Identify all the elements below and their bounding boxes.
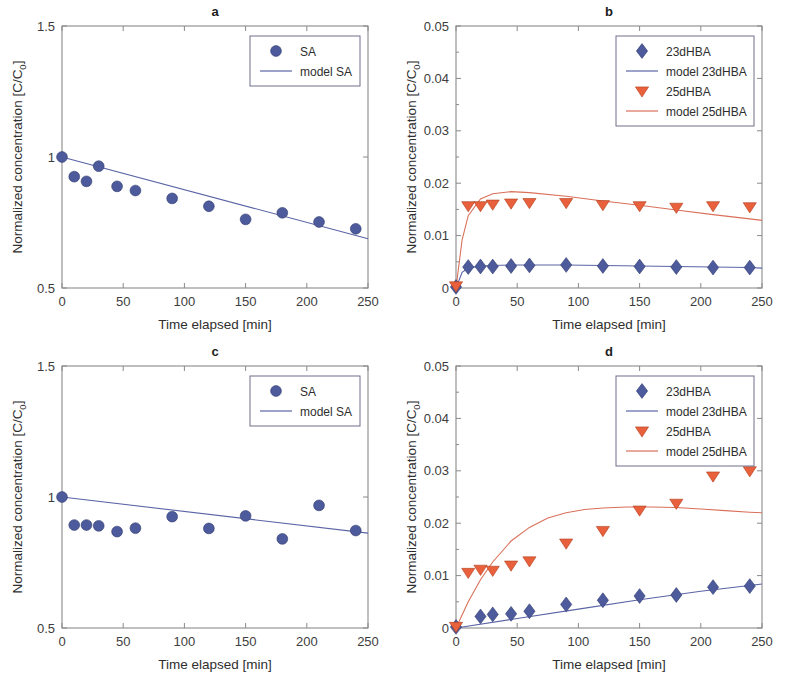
x-tick-label: 200 [296, 294, 318, 309]
data-point-25dHBA [743, 203, 756, 213]
x-tick-label: 0 [58, 634, 65, 649]
y-tick-label: 0 [442, 281, 449, 296]
svg-text:Normalized concentration [C/C0: Normalized concentration [C/C0] [404, 61, 422, 254]
data-point-SA [93, 520, 104, 531]
data-point-SA [314, 500, 325, 511]
plot-c: c0501001502002500.511.5Time elapsed [min… [0, 340, 393, 680]
data-point-25dHBA [462, 202, 475, 212]
y-tick-label: 0.01 [424, 228, 449, 243]
data-point-SA [240, 510, 251, 521]
data-point-23dHBA [707, 580, 718, 595]
panel-title-d: d [605, 344, 613, 359]
x-axis-title: Time elapsed [min] [552, 657, 666, 672]
legend-label: 23dHBA [666, 385, 711, 399]
data-point-SA [350, 525, 361, 536]
legend-d: 23dHBAmodel 23dHBA25dHBAmodel 25dHBA [616, 376, 754, 466]
y-tick-label: 0.5 [37, 281, 55, 296]
y-axis-title: Normalized concentration [C/C0] [404, 61, 422, 254]
legend-label: model 25dHBA [666, 105, 747, 119]
subplot-d: d05010015020025000.010.020.030.040.05Tim… [394, 340, 787, 680]
data-point-23dHBA [707, 260, 718, 275]
panel-title-b: b [605, 4, 613, 19]
data-point-23dHBA [561, 258, 572, 273]
x-tick-label: 100 [568, 634, 590, 649]
x-axis-title: Time elapsed [min] [158, 657, 272, 672]
x-tick-label: 50 [510, 294, 524, 309]
data-point-23dHBA [487, 259, 498, 274]
x-tick-label: 100 [568, 294, 590, 309]
subplot-a: a0501001502002500.511.5Time elapsed [min… [0, 0, 393, 340]
panel-title-c: c [211, 344, 218, 359]
data-point-25dHBA [633, 202, 646, 212]
data-point-23dHBA [671, 260, 682, 275]
plot-a: a0501001502002500.511.5Time elapsed [min… [0, 0, 393, 340]
plot-b: b05010015020025000.010.020.030.040.05Tim… [394, 0, 787, 340]
x-tick-label: 250 [751, 634, 773, 649]
x-tick-label: 150 [235, 634, 257, 649]
data-point-SA [112, 526, 123, 537]
data-point-25dHBA [670, 203, 683, 213]
legend-a: SAmodel SA [250, 36, 360, 86]
y-tick-label: 1.5 [37, 19, 55, 34]
y-tick-label: 0.01 [424, 568, 449, 583]
data-point-SA [203, 201, 214, 212]
x-tick-label: 100 [174, 294, 196, 309]
y-tick-label: 0.02 [424, 516, 449, 531]
plot-d: d05010015020025000.010.020.030.040.05Tim… [394, 340, 787, 680]
data-point-SA [69, 171, 80, 182]
data-point-25dHBA [523, 198, 536, 208]
legend-label: SA [300, 45, 316, 59]
legend-box [250, 36, 360, 86]
x-tick-label: 0 [452, 294, 459, 309]
data-point-23dHBA [744, 260, 755, 275]
x-tick-label: 50 [116, 294, 130, 309]
data-point-25dHBA [523, 557, 536, 567]
data-point-23dHBA [634, 259, 645, 274]
data-point-SA [240, 214, 251, 225]
legend-label: model SA [300, 405, 352, 419]
data-point-25dHBA [486, 200, 499, 210]
data-point-23dHBA [524, 258, 535, 273]
data-point-23dHBA [744, 579, 755, 594]
data-point-23dHBA [505, 259, 516, 274]
data-point-SA [69, 520, 80, 531]
legend-box [250, 376, 360, 426]
legend-label: 25dHBA [666, 85, 711, 99]
data-point-SA [112, 181, 123, 192]
data-point-25dHBA [560, 198, 573, 208]
legend-label: model 25dHBA [666, 445, 747, 459]
x-tick-label: 150 [629, 634, 651, 649]
data-point-23dHBA [561, 597, 572, 612]
y-tick-label: 0.05 [424, 359, 449, 374]
legend-label: model 23dHBA [666, 65, 747, 79]
y-tick-label: 0 [442, 621, 449, 636]
data-point-23dHBA [475, 609, 486, 624]
y-axis-title: Normalized concentration [C/C0] [10, 61, 28, 254]
legend-label: model SA [300, 65, 352, 79]
data-point-25dHBA [486, 566, 499, 576]
data-point-23dHBA [597, 593, 608, 608]
legend-marker-circle [271, 386, 282, 397]
x-tick-label: 0 [58, 294, 65, 309]
data-point-25dHBA [474, 202, 487, 212]
data-point-25dHBA [504, 199, 517, 209]
data-point-25dHBA [596, 526, 609, 536]
model-line-model-25dHBA [456, 507, 762, 628]
data-point-SA [81, 176, 92, 187]
data-point-SA [314, 217, 325, 228]
data-point-SA [81, 520, 92, 531]
data-point-SA [167, 511, 178, 522]
x-axis-title: Time elapsed [min] [552, 317, 666, 332]
data-point-SA [130, 523, 141, 534]
y-tick-label: 1.5 [37, 359, 55, 374]
x-tick-label: 150 [235, 294, 257, 309]
legend-marker-circle [271, 46, 282, 57]
y-tick-label: 0.02 [424, 176, 449, 191]
data-point-SA [350, 223, 361, 234]
legend-c: SAmodel SA [250, 376, 360, 426]
data-point-25dHBA [560, 539, 573, 549]
y-tick-label: 0.03 [424, 123, 449, 138]
x-tick-label: 0 [452, 634, 459, 649]
data-point-25dHBA [504, 561, 517, 571]
x-tick-label: 200 [296, 634, 318, 649]
